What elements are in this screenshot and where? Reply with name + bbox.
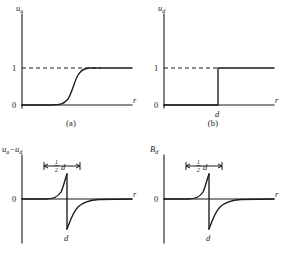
x-axis-label: r bbox=[133, 95, 137, 105]
y-axis-label: ua−ud bbox=[2, 144, 23, 155]
svg-text:2: 2 bbox=[55, 167, 58, 173]
panel-b: ud 1 0 d r (b) bbox=[142, 0, 284, 133]
curve-ua bbox=[22, 68, 132, 105]
x-axis-label: r bbox=[133, 189, 137, 199]
panel-d: 1 2 d Bd 0 d r (d) bbox=[142, 133, 284, 266]
svg-text:1: 1 bbox=[197, 159, 200, 165]
y-tick-label-1: 1 bbox=[12, 63, 16, 73]
panel-c-plot: 1 2 d ua−ud 0 d r bbox=[0, 133, 142, 266]
y-axis-label: ua bbox=[16, 3, 23, 14]
curve-negative-lobe bbox=[209, 199, 274, 229]
origin-label: 0 bbox=[12, 194, 16, 204]
svg-text:1: 1 bbox=[55, 159, 58, 165]
curve-ud bbox=[164, 68, 274, 105]
panel-c: 1 2 d ua−ud 0 d r (c) bbox=[0, 133, 142, 266]
curve-positive-lobe bbox=[164, 174, 209, 199]
curve-negative-lobe bbox=[67, 199, 132, 229]
bracket-var: d bbox=[203, 162, 208, 172]
figure-container: ua 1 0 r (a) ud 1 0 d r (b) bbox=[0, 0, 284, 266]
origin-label: 0 bbox=[154, 100, 158, 110]
x-tick-label-d: d bbox=[206, 233, 211, 243]
panel-b-plot: ud 1 0 d r bbox=[142, 0, 284, 133]
panel-a-plot: ua 1 0 r bbox=[0, 0, 142, 133]
svg-text:2: 2 bbox=[197, 167, 200, 173]
y-tick-label-1: 1 bbox=[154, 63, 158, 73]
origin-label: 0 bbox=[154, 194, 158, 204]
panel-a: ua 1 0 r (a) bbox=[0, 0, 142, 133]
panel-d-plot: 1 2 d Bd 0 d r bbox=[142, 133, 284, 266]
curve-positive-lobe bbox=[22, 174, 67, 199]
panel-a-caption: (a) bbox=[0, 118, 142, 128]
bracket-var: d bbox=[61, 162, 66, 172]
x-axis-label: r bbox=[275, 189, 279, 199]
x-tick-label-d: d bbox=[64, 233, 69, 243]
panel-b-caption: (b) bbox=[142, 118, 284, 128]
origin-label: 0 bbox=[12, 100, 16, 110]
y-axis-label: ud bbox=[158, 3, 166, 14]
x-axis-label: r bbox=[275, 95, 279, 105]
y-axis-label: Bd bbox=[150, 144, 159, 155]
